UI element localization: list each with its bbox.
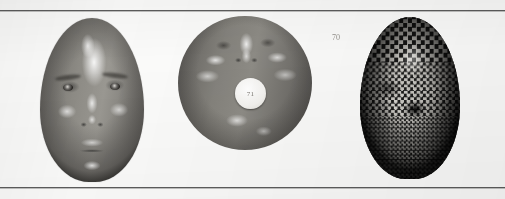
circular-patch-label: 71: [247, 90, 254, 98]
figure-panels: 71 70: [0, 11, 505, 187]
right-eyebrow-shade: [102, 71, 128, 79]
spherical-face-image: 71: [178, 16, 312, 150]
right-iris: [110, 83, 120, 90]
panel-spherical-face-morph: 71 70: [172, 11, 318, 187]
circular-patch-marker: 71: [235, 78, 266, 109]
bottom-rule: [0, 187, 505, 188]
checker-face-highlight: [360, 17, 460, 179]
panel-shaded-face-render: [22, 11, 162, 187]
shaded-face-image: [40, 18, 144, 182]
left-iris: [63, 84, 73, 91]
figure-page: 71 70: [0, 0, 505, 199]
panel-checkerboard-face: [352, 11, 470, 187]
checkerboard-face-image: [360, 17, 460, 179]
left-eyebrow-shade: [55, 73, 81, 81]
margin-annotation-70: 70: [332, 33, 340, 42]
